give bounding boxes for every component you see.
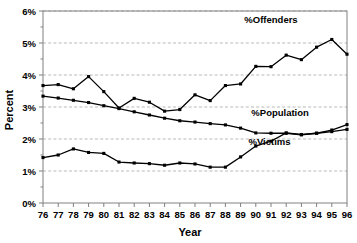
annotation-label-offenders: %Offenders bbox=[244, 14, 297, 25]
data-point-marker bbox=[41, 95, 44, 98]
data-point-marker bbox=[330, 130, 333, 133]
data-point-marker bbox=[193, 162, 196, 165]
data-point-marker bbox=[87, 151, 90, 154]
y-tick-label-0pct: 0% bbox=[22, 198, 36, 209]
data-point-marker bbox=[72, 99, 75, 102]
x-tick-label-81: 81 bbox=[114, 209, 125, 220]
y-axis-title: Percent bbox=[3, 89, 15, 130]
data-point-marker bbox=[133, 110, 136, 113]
y-tick-label-3pct: 3% bbox=[22, 102, 36, 113]
data-point-marker bbox=[209, 166, 212, 169]
y-tick-label-6pct: 6% bbox=[22, 6, 36, 17]
data-point-marker bbox=[133, 161, 136, 164]
data-point-marker bbox=[315, 132, 318, 135]
y-tick-label-1pct: 1% bbox=[22, 166, 36, 177]
data-point-marker bbox=[269, 65, 272, 68]
data-point-marker bbox=[41, 156, 44, 159]
annotation-label-victims: %Victims bbox=[248, 136, 290, 147]
x-axis-ticks bbox=[43, 203, 347, 207]
data-point-marker bbox=[117, 160, 120, 163]
data-point-marker bbox=[330, 38, 333, 41]
data-point-marker bbox=[239, 155, 242, 158]
x-tick-label-93: 93 bbox=[296, 209, 307, 220]
x-tick-label-91: 91 bbox=[266, 209, 277, 220]
data-point-marker bbox=[254, 65, 257, 68]
data-point-marker bbox=[41, 84, 44, 87]
x-tick-label-94: 94 bbox=[311, 209, 322, 220]
data-point-marker bbox=[133, 97, 136, 100]
data-point-marker bbox=[148, 162, 151, 165]
x-axis-title: Year bbox=[178, 226, 202, 238]
data-point-marker bbox=[57, 83, 60, 86]
data-point-marker bbox=[102, 104, 105, 107]
x-tick-label-77: 77 bbox=[53, 209, 64, 220]
x-tick-label-79: 79 bbox=[83, 209, 94, 220]
x-axis-tick-labels: 7677787980818283848586878889909192939495… bbox=[38, 209, 353, 220]
x-tick-label-82: 82 bbox=[129, 209, 140, 220]
data-point-marker bbox=[345, 123, 348, 126]
data-point-marker bbox=[209, 122, 212, 125]
data-point-marker bbox=[163, 110, 166, 113]
x-tick-label-96: 96 bbox=[342, 209, 353, 220]
data-point-marker bbox=[209, 99, 212, 102]
data-point-marker bbox=[102, 90, 105, 93]
x-tick-label-80: 80 bbox=[99, 209, 110, 220]
data-point-marker bbox=[178, 108, 181, 111]
data-point-marker bbox=[72, 87, 75, 90]
x-tick-label-95: 95 bbox=[327, 209, 338, 220]
data-point-marker bbox=[193, 93, 196, 96]
data-point-marker bbox=[224, 166, 227, 169]
x-tick-label-87: 87 bbox=[205, 209, 216, 220]
data-point-marker bbox=[300, 58, 303, 61]
data-point-marker bbox=[224, 123, 227, 126]
data-point-marker bbox=[345, 128, 348, 131]
x-tick-label-88: 88 bbox=[220, 209, 231, 220]
x-tick-label-86: 86 bbox=[190, 209, 201, 220]
x-tick-label-85: 85 bbox=[175, 209, 186, 220]
data-point-marker bbox=[148, 113, 151, 116]
data-point-marker bbox=[178, 161, 181, 164]
line-chart: 0%1%2%3%4%5%6% 7677787980818283848586878… bbox=[0, 0, 357, 243]
data-point-marker bbox=[57, 96, 60, 99]
x-tick-label-78: 78 bbox=[68, 209, 79, 220]
y-tick-label-2pct: 2% bbox=[22, 134, 36, 145]
x-tick-label-89: 89 bbox=[235, 209, 246, 220]
x-tick-label-90: 90 bbox=[251, 209, 262, 220]
data-point-marker bbox=[300, 133, 303, 136]
data-point-marker bbox=[57, 153, 60, 156]
x-tick-label-76: 76 bbox=[38, 209, 49, 220]
data-point-marker bbox=[239, 82, 242, 85]
data-point-marker bbox=[117, 107, 120, 110]
data-point-marker bbox=[87, 75, 90, 78]
data-point-marker bbox=[269, 132, 272, 135]
x-tick-label-83: 83 bbox=[144, 209, 155, 220]
y-tick-label-5pct: 5% bbox=[22, 38, 36, 49]
data-point-marker bbox=[72, 147, 75, 150]
data-point-marker bbox=[148, 101, 151, 104]
data-point-marker bbox=[345, 53, 348, 56]
y-tick-label-4pct: 4% bbox=[22, 70, 36, 81]
data-point-marker bbox=[163, 164, 166, 167]
data-point-marker bbox=[254, 131, 257, 134]
data-point-marker bbox=[285, 131, 288, 134]
data-point-marker bbox=[178, 119, 181, 122]
data-point-marker bbox=[193, 120, 196, 123]
data-point-marker bbox=[87, 101, 90, 104]
x-tick-label-92: 92 bbox=[281, 209, 292, 220]
data-point-marker bbox=[285, 54, 288, 57]
chart-canvas: 0%1%2%3%4%5%6% 7677787980818283848586878… bbox=[0, 0, 357, 243]
annotation-label-population: %Population bbox=[251, 107, 309, 118]
data-point-marker bbox=[239, 127, 242, 130]
data-point-marker bbox=[102, 152, 105, 155]
x-tick-label-84: 84 bbox=[159, 209, 170, 220]
data-point-marker bbox=[315, 46, 318, 49]
data-point-marker bbox=[224, 84, 227, 87]
data-point-marker bbox=[163, 117, 166, 120]
